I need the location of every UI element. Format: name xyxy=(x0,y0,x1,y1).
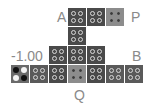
dot-icon xyxy=(90,18,95,23)
dot-icon xyxy=(110,12,113,15)
label-b: B xyxy=(132,49,141,63)
dot-icon xyxy=(90,11,95,16)
dot-icon xyxy=(52,68,57,73)
dot-icon xyxy=(13,67,19,73)
dot-icon xyxy=(71,30,76,35)
tile[interactable] xyxy=(30,65,48,83)
dot-icon xyxy=(52,49,57,54)
dot-icon xyxy=(128,68,133,73)
tile[interactable] xyxy=(49,46,67,64)
label-q: Q xyxy=(74,88,85,102)
dot-icon xyxy=(59,49,64,54)
dot-icon xyxy=(78,11,83,16)
dot-icon xyxy=(71,18,76,23)
dot-icon xyxy=(117,12,120,15)
dot-icon xyxy=(97,68,102,73)
dot-icon xyxy=(109,68,114,73)
dot-icon xyxy=(40,68,45,73)
tile[interactable] xyxy=(106,65,124,83)
dot-icon xyxy=(78,49,83,54)
tile[interactable] xyxy=(87,65,105,83)
tile[interactable] xyxy=(11,65,29,83)
dot-icon xyxy=(117,19,120,22)
dot-icon xyxy=(21,75,27,81)
dot-icon xyxy=(71,37,76,42)
dot-icon xyxy=(128,75,133,80)
tile[interactable] xyxy=(68,65,86,83)
dot-icon xyxy=(33,68,38,73)
dot-icon xyxy=(59,56,64,61)
dot-icon xyxy=(71,49,76,54)
dot-icon xyxy=(97,11,102,16)
tile[interactable] xyxy=(49,65,67,83)
dot-icon xyxy=(135,75,140,80)
tile[interactable] xyxy=(68,27,86,45)
tile[interactable] xyxy=(87,8,105,26)
dot-icon xyxy=(71,11,76,16)
dot-icon xyxy=(97,18,102,23)
dot-icon xyxy=(13,75,19,81)
dot-icon xyxy=(90,68,95,73)
dot-icon xyxy=(59,68,64,73)
tile[interactable] xyxy=(125,65,143,83)
dot-icon xyxy=(90,75,95,80)
dot-icon xyxy=(40,75,45,80)
tile[interactable] xyxy=(106,8,124,26)
dot-icon xyxy=(116,75,121,80)
dot-icon xyxy=(97,75,102,80)
label-a: A xyxy=(57,10,66,24)
dot-icon xyxy=(72,69,75,72)
dot-icon xyxy=(97,49,102,54)
dot-icon xyxy=(78,30,83,35)
dot-icon xyxy=(78,56,83,61)
value-label: -1.00 xyxy=(11,49,43,63)
tile[interactable] xyxy=(68,8,86,26)
dot-icon xyxy=(135,68,140,73)
dot-icon xyxy=(109,75,114,80)
label-p: P xyxy=(131,10,140,24)
dot-icon xyxy=(72,76,75,79)
dot-icon xyxy=(97,56,102,61)
dot-icon xyxy=(90,56,95,61)
dot-icon xyxy=(78,37,83,42)
dot-icon xyxy=(33,75,38,80)
dot-icon xyxy=(116,68,121,73)
dot-icon xyxy=(90,49,95,54)
dot-icon xyxy=(79,76,82,79)
dot-icon xyxy=(71,56,76,61)
dot-icon xyxy=(78,18,83,23)
tile[interactable] xyxy=(68,46,86,64)
tile[interactable] xyxy=(87,46,105,64)
dot-icon xyxy=(59,75,64,80)
dot-icon xyxy=(79,69,82,72)
dot-icon xyxy=(52,75,57,80)
dot-icon xyxy=(110,19,113,22)
dot-icon xyxy=(21,67,27,73)
dot-icon xyxy=(52,56,57,61)
